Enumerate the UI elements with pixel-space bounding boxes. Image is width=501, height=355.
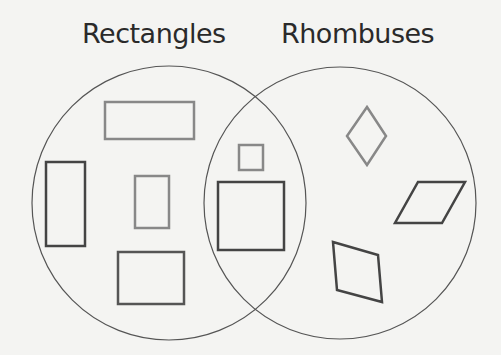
square-shape: [218, 182, 284, 250]
rhombus-shape: [333, 242, 382, 302]
rhombus-shape: [395, 182, 465, 223]
rectangle-shape: [118, 252, 184, 304]
rhombus-shape: [347, 107, 386, 165]
rectangle-shape: [135, 176, 169, 228]
circle-rhombuses: [204, 67, 476, 339]
venn-diagram: [0, 0, 501, 355]
square-shape: [239, 145, 263, 170]
rectangle-shape: [105, 102, 194, 139]
rectangle-shape: [46, 162, 85, 246]
